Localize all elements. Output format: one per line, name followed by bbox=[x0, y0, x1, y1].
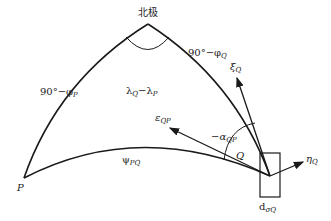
spherical-triangle-figure bbox=[0, 0, 331, 221]
label-angle-q: −αQP bbox=[211, 132, 237, 144]
vector-eta bbox=[270, 162, 303, 176]
label-vertex-q: Q bbox=[236, 151, 244, 161]
label-vector-eps: εQP bbox=[155, 113, 171, 125]
arc-p-q bbox=[24, 147, 270, 178]
label-vector-eta: ηQ bbox=[306, 154, 318, 166]
label-angle-pole: λQ−λP bbox=[126, 86, 158, 98]
angle-arc-pole bbox=[126, 37, 169, 50]
label-north-pole: 北极 bbox=[138, 8, 158, 18]
label-side-pole-q: 90°−φQ bbox=[188, 48, 227, 60]
label-area-element: dσQ bbox=[259, 202, 276, 214]
label-vertex-p: P bbox=[17, 183, 24, 193]
label-vector-xi: ξQ bbox=[230, 62, 241, 74]
vector-xi bbox=[237, 78, 270, 176]
label-side-p-q: ψPQ bbox=[122, 155, 140, 167]
label-side-pole-p: 90°−φP bbox=[40, 87, 78, 99]
